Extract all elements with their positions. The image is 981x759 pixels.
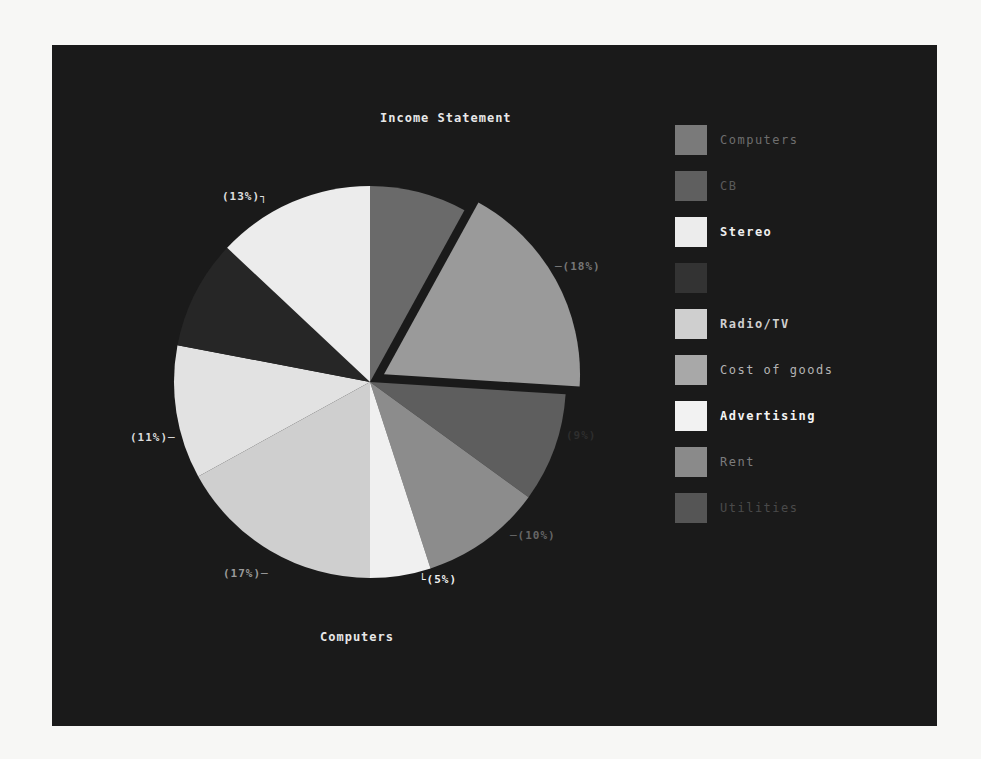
crt-screen: Income Statement ─(18%) (9%) ─(10%) └(5%… [52,45,937,726]
legend-item-utilities: Utilities [675,493,875,523]
legend-item-advertising: Advertising [675,401,875,431]
legend-swatch [675,355,707,385]
legend-item-cost-of-goods: Cost of goods [675,355,875,385]
legend-swatch [675,171,707,201]
pct-label-stereo-left: (11%)─ [130,431,176,444]
pct-label-advertising: └(5%) [419,573,457,586]
legend-item-computers: Computers [675,125,875,155]
legend-label: Stereo [720,225,772,239]
legend-item-rent: Rent [675,447,875,477]
legend-label: Radio/TV [720,317,790,331]
legend-label: Utilities [720,501,799,515]
legend-swatch [675,493,707,523]
legend-item-stereo: Stereo [675,217,875,247]
legend-label: Advertising [720,409,816,423]
legend-label: CB [720,179,737,193]
legend-label: Computers [720,133,799,147]
legend-swatch [675,263,707,293]
legend-label: Rent [720,455,755,469]
pct-label-radio-tv: (17%)─ [223,567,269,580]
pct-label-rent: (9%) [566,429,597,442]
legend-swatch [675,125,707,155]
legend-swatch [675,447,707,477]
pct-label-stereo-top: (13%)┐ [222,190,268,203]
legend-swatch [675,401,707,431]
legend-item-radio-tv: Radio/TV [675,309,875,339]
legend-item-cb: CB [675,171,875,201]
chart-subtitle: Computers [320,630,394,644]
legend-item-unlabeled [675,263,875,293]
legend-swatch [675,217,707,247]
legend-label: Cost of goods [720,363,833,377]
legend-swatch [675,309,707,339]
pct-label-cost-of-goods: ─(18%) [555,260,601,273]
pct-label-utilities: ─(10%) [510,529,556,542]
